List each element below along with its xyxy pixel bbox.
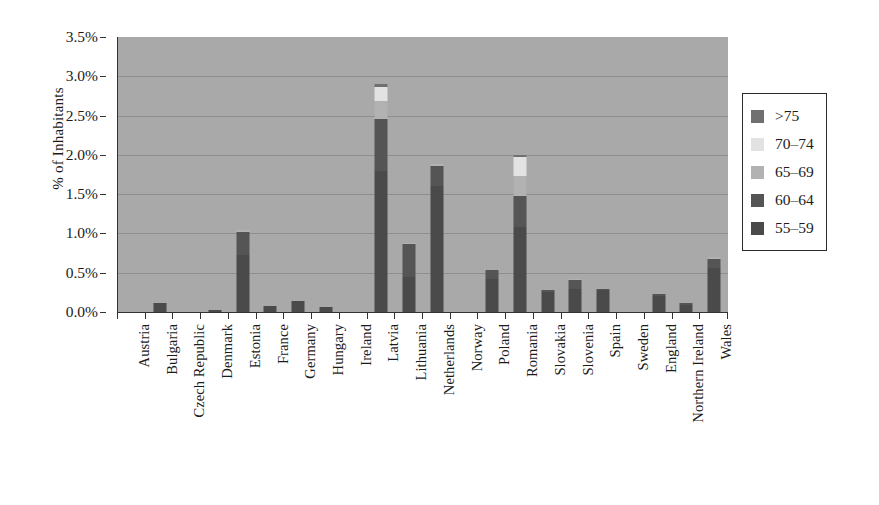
bar-segment[interactable] (514, 157, 527, 176)
bar-segment[interactable] (430, 186, 443, 312)
y-tick-label: 2.0% (66, 147, 98, 163)
bar-segment[interactable] (597, 290, 610, 312)
bar-segment[interactable] (486, 279, 499, 312)
legend-item[interactable]: >75 (751, 102, 814, 130)
stacked-bar[interactable] (541, 290, 554, 312)
bar-series-group (118, 37, 728, 312)
stacked-bar[interactable] (430, 164, 443, 312)
bar-slot[interactable] (589, 37, 617, 312)
bar-segment[interactable] (430, 166, 443, 186)
y-tick-label: 2.5% (66, 108, 98, 124)
x-tick-mark (505, 313, 506, 319)
y-tick-label: 3.0% (66, 69, 98, 85)
x-tick-label: Lithuania (414, 324, 429, 380)
bar-slot[interactable] (173, 37, 201, 312)
bar-segment[interactable] (236, 255, 249, 312)
x-tick-mark (172, 313, 173, 319)
bar-segment[interactable] (569, 289, 582, 312)
bar-segment[interactable] (319, 307, 332, 312)
bar-slot[interactable] (506, 37, 534, 312)
bar-segment[interactable] (708, 259, 721, 268)
bar-segment[interactable] (375, 119, 388, 171)
x-tick-mark (311, 313, 312, 319)
bar-slot[interactable] (146, 37, 174, 312)
x-tick-mark (561, 313, 562, 319)
stacked-bar[interactable] (264, 306, 277, 312)
legend-item[interactable]: 65–69 (751, 158, 814, 186)
stacked-bar[interactable] (236, 230, 249, 312)
y-tick-mark (100, 233, 106, 234)
bar-segment[interactable] (403, 277, 416, 312)
chart-figure: % of Inhabitants 0.0%0.5%1.0%1.5%2.0%2.5… (0, 0, 879, 505)
y-tick-mark (100, 76, 106, 77)
stacked-bar[interactable] (680, 303, 693, 312)
legend-item[interactable]: 70–74 (751, 130, 814, 158)
y-tick-label: 3.5% (66, 29, 98, 45)
bar-slot[interactable] (451, 37, 479, 312)
x-tick-label: England (664, 324, 679, 373)
bar-segment[interactable] (375, 87, 388, 101)
stacked-bar[interactable] (597, 289, 610, 312)
bar-segment[interactable] (569, 280, 582, 289)
bar-segment[interactable] (514, 176, 527, 196)
bar-segment[interactable] (541, 292, 554, 312)
bar-slot[interactable] (645, 37, 673, 312)
bar-slot[interactable] (257, 37, 285, 312)
x-tick-mark (699, 313, 700, 319)
bar-segment[interactable] (680, 305, 693, 312)
bar-segment[interactable] (236, 232, 249, 256)
x-tick-label: Czech Republic (192, 324, 207, 418)
x-tick-label: France (276, 324, 291, 364)
stacked-bar[interactable] (708, 257, 721, 312)
y-tick-mark (100, 155, 106, 156)
bar-slot[interactable] (118, 37, 146, 312)
bar-segment[interactable] (708, 268, 721, 312)
y-tick-mark (100, 194, 106, 195)
bar-slot[interactable] (229, 37, 257, 312)
bar-segment[interactable] (486, 270, 499, 279)
bar-slot[interactable] (673, 37, 701, 312)
x-tick-label: Germany (303, 324, 318, 379)
stacked-bar[interactable] (292, 301, 305, 312)
legend-item[interactable]: 60–64 (751, 186, 814, 214)
bar-segment[interactable] (153, 303, 166, 312)
stacked-bar[interactable] (375, 84, 388, 312)
bar-segment[interactable] (375, 171, 388, 312)
bar-segment[interactable] (514, 196, 527, 227)
bar-segment[interactable] (292, 301, 305, 312)
stacked-bar[interactable] (569, 279, 582, 312)
bar-slot[interactable] (284, 37, 312, 312)
x-tick-label: Norway (470, 324, 485, 371)
x-tick-mark (422, 313, 423, 319)
bar-slot[interactable] (368, 37, 396, 312)
bar-slot[interactable] (700, 37, 728, 312)
bar-slot[interactable] (562, 37, 590, 312)
stacked-bar[interactable] (403, 243, 416, 312)
bar-slot[interactable] (423, 37, 451, 312)
bar-segment[interactable] (264, 306, 277, 312)
bar-slot[interactable] (534, 37, 562, 312)
bar-slot[interactable] (340, 37, 368, 312)
bar-segment[interactable] (209, 310, 222, 312)
bar-slot[interactable] (478, 37, 506, 312)
x-tick-label: Slovenia (581, 324, 596, 376)
legend-label: 55–59 (775, 220, 814, 236)
legend-item[interactable]: 55–59 (751, 214, 814, 242)
x-tick-mark (644, 313, 645, 319)
stacked-bar[interactable] (209, 310, 222, 312)
stacked-bar[interactable] (486, 270, 499, 312)
stacked-bar[interactable] (514, 155, 527, 312)
legend-swatch-icon (751, 166, 764, 179)
stacked-bar[interactable] (153, 303, 166, 312)
x-tick-mark (394, 313, 395, 319)
stacked-bar[interactable] (319, 307, 332, 312)
bar-slot[interactable] (312, 37, 340, 312)
stacked-bar[interactable] (652, 294, 665, 312)
bar-segment[interactable] (403, 244, 416, 276)
bar-slot[interactable] (395, 37, 423, 312)
bar-slot[interactable] (617, 37, 645, 312)
bar-segment[interactable] (652, 296, 665, 312)
bar-segment[interactable] (514, 227, 527, 312)
bar-slot[interactable] (201, 37, 229, 312)
bar-segment[interactable] (375, 101, 388, 119)
